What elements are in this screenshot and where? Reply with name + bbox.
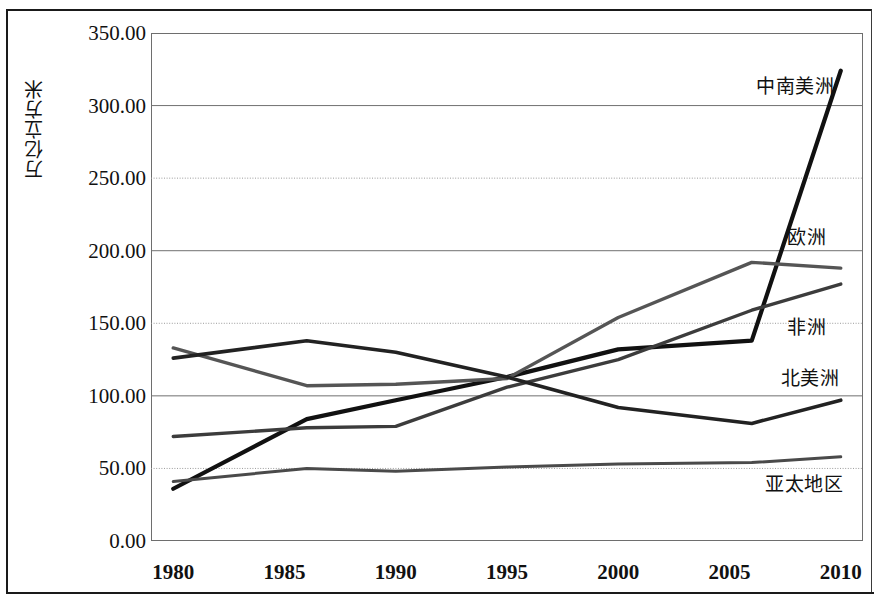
y-axis-tick-label: 350.00 [50, 23, 146, 44]
x-axis-tick-label: 2005 [685, 560, 775, 585]
series-label: 北美洲 [781, 369, 840, 388]
series-line [173, 71, 841, 489]
x-axis-tick-label: 1990 [351, 560, 441, 585]
series-label: 中南美洲 [756, 77, 834, 96]
series-line [173, 457, 841, 482]
series-line [173, 262, 841, 385]
y-axis-tick-label: 200.00 [50, 241, 146, 262]
y-axis-tick-label: 250.00 [50, 168, 146, 189]
x-axis-tick-label: 1980 [128, 560, 218, 585]
y-axis-tick-label: 300.00 [50, 96, 146, 117]
y-axis-tick-labels: 350.00300.00250.00200.00150.00100.0050.0… [46, 0, 146, 602]
y-axis-tick-label: 0.00 [50, 531, 146, 552]
x-axis-tick-label: 2010 [796, 560, 881, 585]
series-line [173, 284, 841, 436]
y-axis-tick-label: 100.00 [50, 386, 146, 407]
y-axis-tick-label: 50.00 [50, 458, 146, 479]
series-line [173, 341, 841, 424]
series-label: 亚太地区 [765, 475, 843, 494]
x-axis-tick-label: 1995 [462, 560, 552, 585]
series-label: 欧洲 [787, 228, 826, 247]
plot-area [151, 33, 863, 541]
y-axis-title: 万亿立方米 [22, 24, 48, 234]
series-label: 非洲 [787, 318, 826, 337]
y-axis-tick-label: 150.00 [50, 313, 146, 334]
chart-lines [151, 33, 863, 541]
x-axis-tick-label: 2000 [573, 560, 663, 585]
chart-figure: 万亿立方米 350.00300.00250.00200.00150.00100.… [0, 0, 881, 602]
x-axis-tick-label: 1985 [240, 560, 330, 585]
